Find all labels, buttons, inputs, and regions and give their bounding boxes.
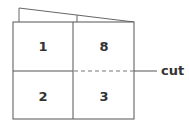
- panel-label-2: 2: [38, 89, 47, 104]
- panel-label-1: 1: [38, 39, 47, 54]
- panel-label-8: 8: [99, 39, 108, 54]
- panel-label-3: 3: [99, 89, 108, 104]
- folded-page-diagram: 1 8 2 3 cut: [0, 0, 189, 126]
- cut-label: cut: [161, 63, 184, 78]
